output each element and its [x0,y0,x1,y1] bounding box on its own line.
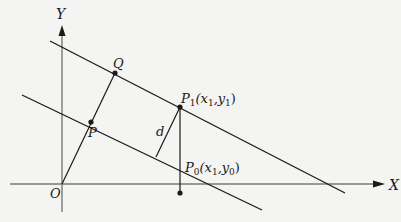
point-p0-label: P0(x1,y0) [184,160,240,177]
point-p1-label: P1(x1,y1) [180,91,236,108]
point-p-label: P [87,125,97,140]
point-q-label: Q [113,56,124,71]
point-p0 [177,190,182,195]
y-axis-label: Y [56,6,67,22]
diagram-canvas: Y X O Q P d P1(x1,y1) P0(x1,y0) [0,0,401,222]
y-axis-arrow-icon [59,25,66,36]
x-axis-arrow-icon [373,181,385,188]
origin-label: O [50,186,61,201]
distance-label: d [156,124,164,139]
point-q [112,70,117,75]
x-axis-label: X [388,177,400,193]
point-p [88,119,93,124]
